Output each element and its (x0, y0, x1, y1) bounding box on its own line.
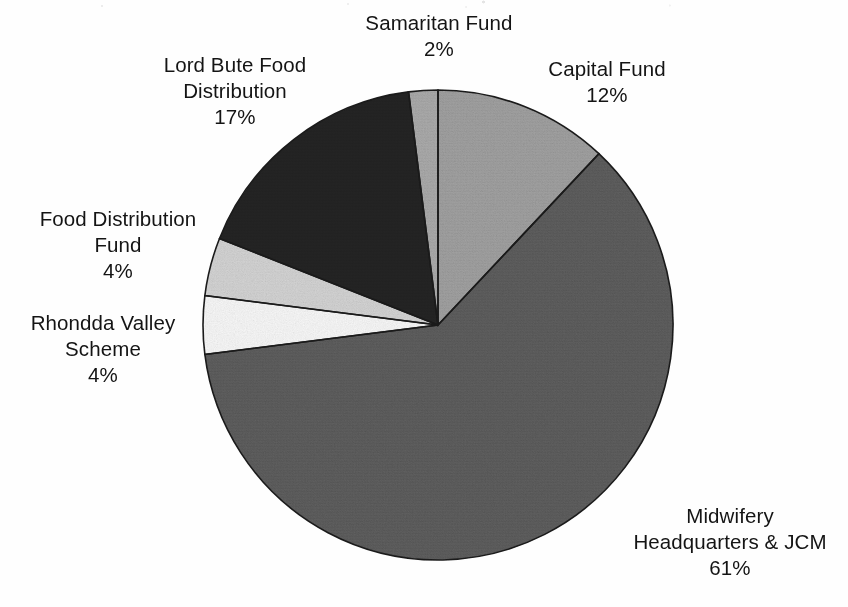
slice-label-line: Lord Bute Food (142, 52, 328, 78)
slice-label-percent: 17% (142, 104, 328, 130)
slice-label-line: Food Distribution (28, 206, 208, 232)
slice-label-line: Capital Fund (527, 56, 687, 82)
slice-label-rhondda-valley-scheme: Rhondda Valley Scheme 4% (14, 310, 192, 388)
slice-label-percent: 12% (527, 82, 687, 108)
slice-label-line: Headquarters & JCM (617, 529, 843, 555)
slice-label-line: Distribution (142, 78, 328, 104)
pie-graphic (201, 88, 675, 562)
slice-label-line: Samaritan Fund (354, 10, 524, 36)
slice-label-percent: 4% (14, 362, 192, 388)
slice-label-midwifery-headquarters-jcm: Midwifery Headquarters & JCM 61% (617, 503, 843, 581)
pie-chart: Samaritan Fund 2% Capital Fund 12% Lord … (0, 0, 848, 607)
slice-label-percent: 4% (28, 258, 208, 284)
slice-label-line: Midwifery (617, 503, 843, 529)
slice-label-capital-fund: Capital Fund 12% (527, 56, 687, 108)
chart-page: Samaritan Fund 2% Capital Fund 12% Lord … (0, 0, 848, 607)
slice-label-percent: 61% (617, 555, 843, 581)
pie-svg (201, 88, 675, 562)
slice-label-samaritan-fund: Samaritan Fund 2% (354, 10, 524, 62)
slice-label-lord-bute-food-distribution: Lord Bute Food Distribution 17% (142, 52, 328, 130)
slice-label-line: Scheme (14, 336, 192, 362)
slice-label-line: Rhondda Valley (14, 310, 192, 336)
slice-label-percent: 2% (354, 36, 524, 62)
slice-label-food-distribution-fund: Food Distribution Fund 4% (28, 206, 208, 284)
slice-label-line: Fund (28, 232, 208, 258)
